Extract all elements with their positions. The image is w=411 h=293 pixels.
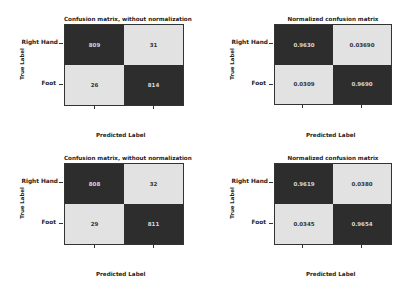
matrix-cell: 0.0380 — [333, 164, 391, 204]
confusion-matrix-grid: 809 31 26 814 — [64, 24, 184, 106]
matrix-cell: 0.9630 — [275, 25, 333, 65]
matrix-cell: 0.0309 — [275, 65, 333, 105]
y-tick — [269, 182, 273, 183]
matrix-cell: 0.9690 — [333, 65, 391, 105]
confusion-matrix-grid: 0.9630 0.03690 0.0309 0.9690 — [274, 24, 392, 105]
x-axis-title: Predicted Label — [306, 132, 355, 138]
x-tick — [94, 245, 95, 248]
y-axis-title: True Label — [19, 48, 25, 80]
y-tick-label: Right Hand — [10, 178, 58, 184]
y-tick-label: Foot — [220, 80, 266, 86]
y-axis-title: True Label — [229, 48, 235, 80]
y-axis-title: True Label — [19, 187, 25, 219]
y-tick — [59, 182, 63, 183]
matrix-cell: 26 — [65, 65, 124, 105]
y-tick-label: Right Hand — [220, 39, 268, 45]
matrix-cell: 0.9654 — [333, 204, 391, 244]
y-tick — [59, 43, 63, 44]
matrix-cell: 0.03690 — [333, 25, 391, 65]
y-tick-label: Right Hand — [10, 39, 58, 45]
matrix-cell: 809 — [65, 25, 124, 65]
x-tick — [302, 245, 303, 248]
matrix-cell: 32 — [124, 164, 183, 204]
x-tick — [302, 105, 303, 108]
x-tick — [153, 106, 154, 109]
x-tick — [361, 105, 362, 108]
chart-title: Normalized confusion matrix — [274, 16, 392, 22]
y-tick — [269, 43, 273, 44]
matrix-cell: 811 — [124, 204, 183, 244]
y-tick-label: Foot — [10, 80, 56, 86]
y-tick — [269, 84, 273, 85]
matrix-cell: 808 — [65, 164, 124, 204]
x-tick — [94, 106, 95, 109]
x-axis-title: Predicted Label — [306, 271, 355, 277]
matrix-cell: 0.9619 — [275, 164, 333, 204]
chart-title: Confusion matrix, without normalization — [64, 155, 184, 161]
y-tick — [269, 223, 273, 224]
y-tick — [59, 84, 63, 85]
matrix-cell: 29 — [65, 204, 124, 244]
confusion-matrix-grid: 808 32 29 811 — [64, 163, 184, 245]
x-tick — [361, 245, 362, 248]
y-axis-title: True Label — [229, 187, 235, 219]
chart-title: Confusion matrix, without normalization — [64, 16, 184, 22]
x-tick — [153, 245, 154, 248]
y-tick-label: Foot — [10, 219, 56, 225]
confusion-matrix-grid: 0.9619 0.0380 0.0345 0.9654 — [274, 163, 392, 245]
matrix-cell: 31 — [124, 25, 183, 65]
x-axis-title: Predicted Label — [96, 132, 145, 138]
chart-title: Normalized confusion matrix — [274, 155, 392, 161]
y-tick-label: Right Hand — [220, 178, 268, 184]
y-tick — [59, 223, 63, 224]
matrix-cell: 0.0345 — [275, 204, 333, 244]
matrix-cell: 814 — [124, 65, 183, 105]
y-tick-label: Foot — [220, 219, 266, 225]
x-axis-title: Predicted Label — [96, 271, 145, 277]
